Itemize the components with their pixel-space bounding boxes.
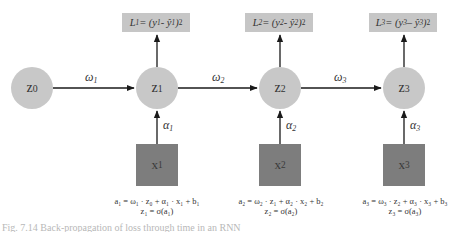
input-weight-label-alpha-2: α2 xyxy=(286,118,296,133)
equation-output-1: z₁ = σ(a₁) xyxy=(97,206,217,216)
equation-step-1: a₁ = ω₁ · z₀ + α₁ · x₁ + b₁ z₁ = σ(a₁) xyxy=(97,196,217,216)
loss-box-3: L3 = (y3 – ŷ3)2 xyxy=(369,13,437,32)
node-z0: z0 xyxy=(11,67,53,109)
loss-box-1: L1 = (y1 - ŷ1)2 xyxy=(122,13,190,32)
node-z3: z3 xyxy=(383,67,425,109)
figure-caption: Fig. 7.14 Back-propagation of loss throu… xyxy=(2,222,241,232)
input-box-x3: x3 xyxy=(383,144,425,186)
node-z1: z1 xyxy=(136,67,178,109)
equation-activation-2: a₂ = ω₂ · z₁ + α₂ · x₂ + b₂ xyxy=(221,196,341,206)
equation-step-3: a₃ = ω₃ · z₂ + α₃ · x₃ + b₃ z₃ = σ(a₃) xyxy=(345,196,457,216)
equation-activation-3: a₃ = ω₃ · z₂ + α₃ · x₃ + b₃ xyxy=(345,196,457,206)
equation-output-2: z₂ = σ(a₂) xyxy=(221,206,341,216)
node-z2: z2 xyxy=(259,67,301,109)
input-weight-label-alpha-1: α1 xyxy=(163,118,173,133)
equation-step-2: a₂ = ω₂ · z₁ + α₂ · x₂ + b₂ z₂ = σ(a₂) xyxy=(221,196,341,216)
equation-output-3: z₃ = σ(a₃) xyxy=(345,206,457,216)
equation-activation-1: a₁ = ω₁ · z₀ + α₁ · x₁ + b₁ xyxy=(97,196,217,206)
weight-label-omega-1: ω1 xyxy=(85,70,97,85)
loss-box-2: L2 = (y2 - ŷ2)2 xyxy=(245,13,313,32)
weight-label-omega-3: ω3 xyxy=(334,70,346,85)
weight-label-omega-2: ω2 xyxy=(212,70,224,85)
input-box-x2: x2 xyxy=(259,144,301,186)
input-weight-label-alpha-3: α3 xyxy=(410,118,420,133)
input-box-x1: x1 xyxy=(136,144,178,186)
